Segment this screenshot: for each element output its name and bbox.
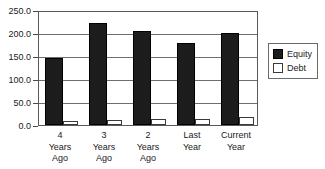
x-label-line: Year xyxy=(170,142,214,154)
y-tick-label: 200.0 xyxy=(8,30,31,39)
legend-label: Debt xyxy=(287,63,306,73)
bar-equity xyxy=(133,31,151,125)
y-tick-mark xyxy=(33,126,38,127)
bar-group xyxy=(127,12,171,125)
x-axis-label: 3 Years Ago xyxy=(82,130,126,165)
x-label-line: 3 xyxy=(82,130,126,142)
legend-swatch-debt-icon xyxy=(273,63,283,73)
x-label-line: Years xyxy=(38,142,82,154)
x-label-line: Years xyxy=(82,142,126,154)
x-label-line: 2 xyxy=(126,130,170,142)
bar-chart: 250.0 200.0 150.0 100.0 50.0 0.0 xyxy=(0,0,325,169)
bar-debt xyxy=(195,119,210,125)
y-tick-label: 0.0 xyxy=(18,122,31,131)
x-label-line: Years xyxy=(126,142,170,154)
y-tick-label: 250.0 xyxy=(8,7,31,16)
x-label-line: Ago xyxy=(38,153,82,165)
y-axis: 250.0 200.0 150.0 100.0 50.0 0.0 xyxy=(0,0,31,169)
plot-area xyxy=(38,11,258,126)
legend-item-debt: Debt xyxy=(273,62,312,74)
y-tick-label: 100.0 xyxy=(8,76,31,85)
legend-item-equity: Equity xyxy=(273,48,312,60)
bar-debt xyxy=(107,120,122,125)
bar-group xyxy=(215,12,259,125)
bar-group xyxy=(83,12,127,125)
legend-label: Equity xyxy=(287,49,312,59)
y-tick-label: 150.0 xyxy=(8,53,31,62)
bar-equity xyxy=(177,43,195,125)
x-label-line: Ago xyxy=(126,153,170,165)
x-axis-label: Current Year xyxy=(212,130,260,153)
x-label-line: Year xyxy=(212,142,260,154)
bar-debt xyxy=(239,117,254,125)
bar-equity xyxy=(45,58,63,125)
bar-debt xyxy=(63,121,78,125)
bar-group xyxy=(171,12,215,125)
bar-group xyxy=(39,12,83,125)
x-label-line: Last xyxy=(170,130,214,142)
chart-legend: Equity Debt xyxy=(268,43,318,79)
legend-swatch-equity-icon xyxy=(273,49,283,59)
y-tick-label: 50.0 xyxy=(13,99,31,108)
bar-equity xyxy=(221,33,239,125)
bar-debt xyxy=(151,119,166,125)
x-axis-label: 2 Years Ago xyxy=(126,130,170,165)
x-label-line: Ago xyxy=(82,153,126,165)
x-label-line: Current xyxy=(212,130,260,142)
x-axis-label: Last Year xyxy=(170,130,214,153)
bar-equity xyxy=(89,23,107,125)
x-label-line: 4 xyxy=(38,130,82,142)
x-axis-label: 4 Years Ago xyxy=(38,130,82,165)
